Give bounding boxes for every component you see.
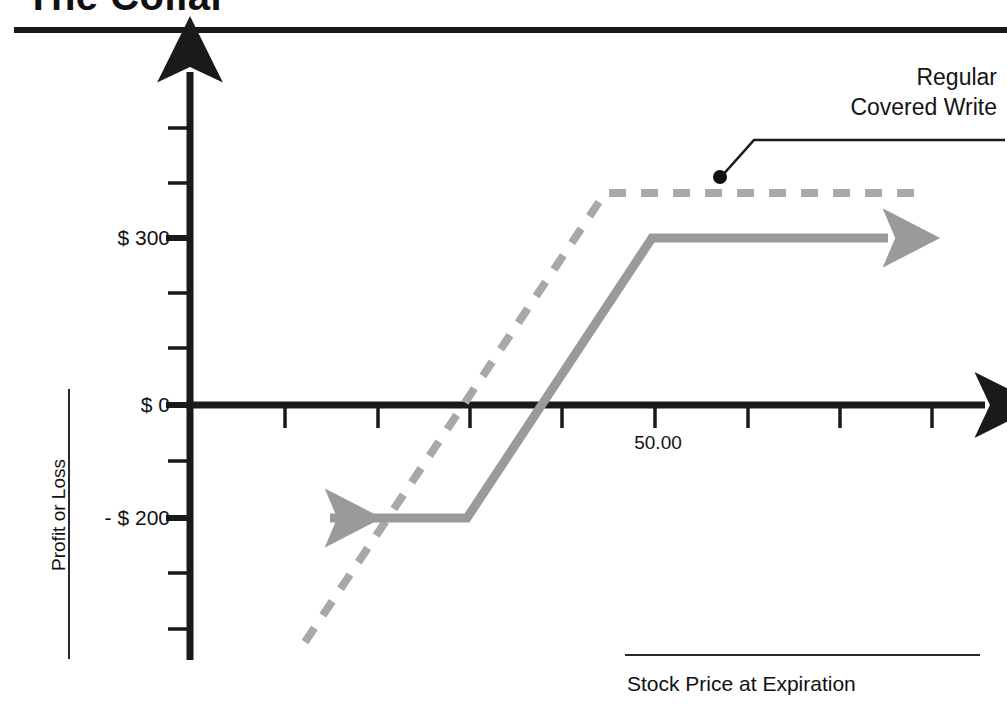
y-tick-label-0: $ 0 <box>30 393 170 417</box>
y-axis-ticks <box>166 128 190 629</box>
x-tick-label-50: 50.00 <box>598 432 718 454</box>
chart-page: The Collar <box>0 0 1007 713</box>
annotation-line-2: Covered Write <box>700 92 997 122</box>
y-axis-title-wrap: Profit or Loss <box>44 420 74 610</box>
y-tick-label-300: $ 300 <box>30 226 170 250</box>
x-axis-title-rule <box>625 654 980 656</box>
callout-leader <box>713 140 1005 184</box>
series-regular-covered-write <box>305 193 920 642</box>
annotation-line-1: Regular <box>700 62 997 92</box>
x-axis-title: Stock Price at Expiration <box>627 672 856 696</box>
y-axis-title: Profit or Loss <box>44 420 74 610</box>
annotation-regular-covered-write: Regular Covered Write <box>700 62 997 122</box>
